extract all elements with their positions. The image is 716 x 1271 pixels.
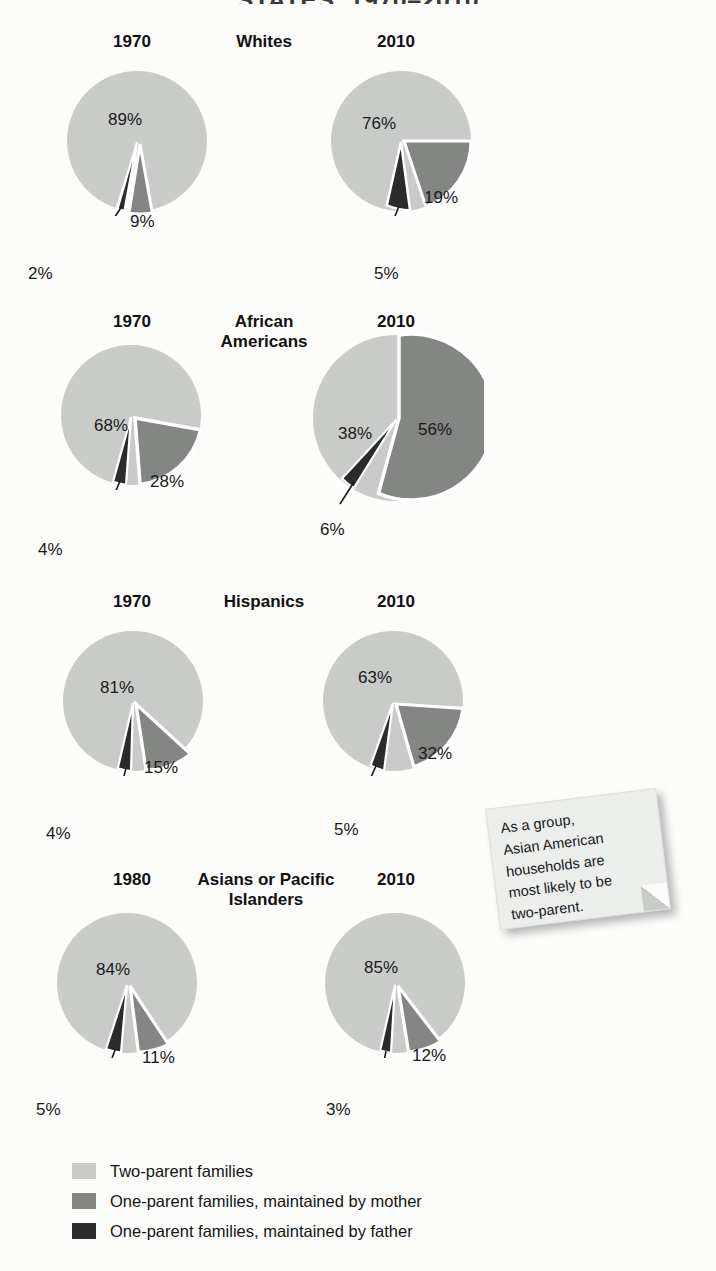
value-hispanics-2010-two-parent: 63% [358, 668, 392, 688]
year-label-whites-1970: 1970 [72, 32, 192, 52]
value-asians-1980-two-parent: 84% [96, 960, 130, 980]
year-label-hispanics-2010: 2010 [336, 592, 456, 612]
year-label-asians-2010: 2010 [336, 870, 456, 890]
pie-african-americans-2010 [308, 330, 484, 506]
value-aa-1970-two-parent: 68% [94, 416, 128, 436]
callout-note-text: As a group, Asian American households ar… [499, 800, 657, 926]
legend-label-two-parent: Two-parent families [110, 1162, 253, 1181]
value-aa-1970-father: 4% [38, 540, 63, 560]
legend-item-mother: One-parent families, maintained by mothe… [72, 1186, 422, 1216]
value-hispanics-1970-mother: 15% [144, 758, 178, 778]
year-label-whites-2010: 2010 [336, 32, 456, 52]
pie-whites-1970 [62, 66, 212, 216]
value-hispanics-1970-father: 4% [46, 824, 71, 844]
value-whites-2010-two-parent: 76% [362, 114, 396, 134]
year-label-african-americans-2010: 2010 [336, 312, 456, 332]
year-label-hispanics-1970: 1970 [72, 592, 192, 612]
value-aa-1970-mother: 28% [150, 472, 184, 492]
legend-swatch-mother [72, 1193, 96, 1209]
pie-asians-2010 [320, 908, 470, 1058]
year-label-african-americans-1970: 1970 [72, 312, 192, 332]
value-asians-2010-father: 3% [326, 1100, 351, 1120]
legend-item-two-parent: Two-parent families [72, 1156, 422, 1186]
value-whites-1970-two-parent: 89% [108, 110, 142, 130]
legend-label-mother: One-parent families, maintained by mothe… [110, 1192, 422, 1211]
pie-svg-aa-1970 [56, 340, 206, 490]
group-label-line-1: Asians or Pacific [176, 870, 356, 890]
legend-swatch-two-parent [72, 1163, 96, 1179]
value-whites-2010-father: 5% [374, 264, 399, 284]
pie-svg-asian-1980 [52, 908, 202, 1058]
chart-title: STATES, 1970–2010 [0, 0, 716, 4]
value-aa-2010-father: 6% [320, 520, 345, 540]
value-asians-1980-father: 5% [36, 1100, 61, 1120]
pie-svg-whites-1970 [62, 66, 212, 216]
value-hispanics-2010-mother: 32% [418, 744, 452, 764]
pie-hispanics-1970 [58, 626, 208, 776]
value-hispanics-2010-father: 5% [334, 820, 359, 840]
panel-row-african-americans: 1970 African Americans 2010 68% 28% 4% [0, 312, 716, 592]
value-asians-1980-mother: 11% [142, 1048, 175, 1068]
pie-svg-hisp-1970 [58, 626, 208, 776]
legend-swatch-father [72, 1223, 96, 1239]
group-label-whites: Whites [196, 32, 332, 52]
value-aa-2010-mother: 56% [418, 420, 452, 440]
legend-item-father: One-parent families, maintained by fathe… [72, 1216, 422, 1246]
chart-legend: Two-parent families One-parent families,… [72, 1156, 422, 1246]
value-aa-2010-two-parent: 38% [338, 424, 372, 444]
value-whites-1970-father: 2% [28, 264, 53, 284]
page-fold-corner-icon [641, 882, 670, 911]
group-label-asians-pacific-islanders: Asians or Pacific Islanders [176, 870, 356, 910]
callout-note: As a group, Asian American households ar… [485, 788, 671, 930]
value-whites-2010-mother: 19% [424, 188, 458, 208]
value-asians-2010-two-parent: 85% [364, 958, 398, 978]
value-hispanics-1970-two-parent: 81% [100, 678, 134, 698]
value-whites-1970-mother: 9% [130, 212, 155, 232]
pie-african-americans-1970 [56, 340, 206, 490]
pie-svg-asian-2010 [320, 908, 470, 1058]
legend-label-father: One-parent families, maintained by fathe… [110, 1222, 413, 1241]
value-asians-2010-mother: 12% [412, 1046, 446, 1066]
year-label-asians-1980: 1980 [72, 870, 192, 890]
group-label-hispanics: Hispanics [196, 592, 332, 612]
panel-row-whites: 1970 Whites 2010 89% 9% 2% 76% 19% 5% [0, 32, 716, 302]
pie-asians-1980 [52, 908, 202, 1058]
pie-svg-aa-2010 [308, 330, 484, 506]
